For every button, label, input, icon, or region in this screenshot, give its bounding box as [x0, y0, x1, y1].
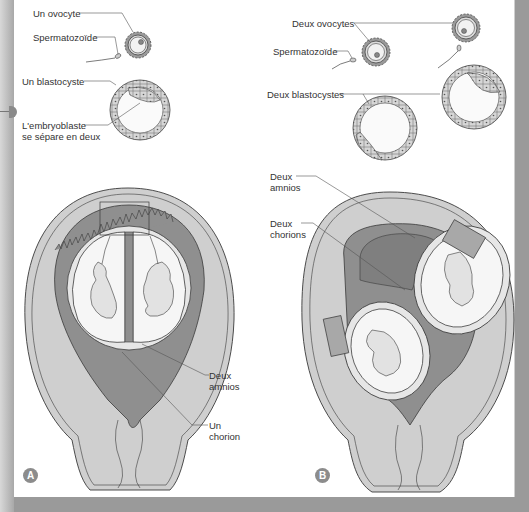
ovocyte-b1: [362, 38, 390, 66]
badge-b: B: [315, 468, 330, 483]
blastocyst-a: [110, 80, 170, 140]
leader-lines-b-top: [334, 23, 453, 104]
blastocyst-b2: [442, 65, 506, 129]
label-spermatozoid-b: Spermatozoïde: [273, 46, 337, 57]
spermatozoid-a: [86, 53, 122, 62]
label-spermatozoid-a: Spermatozoïde: [33, 32, 97, 43]
ovocyte-b2: [452, 14, 480, 42]
label-amnios-b-line1: Deux: [270, 171, 292, 182]
uterus-a: [25, 188, 234, 490]
label-ovocytes-b: Deux ovocytes: [292, 18, 354, 29]
label-blastocyst-a: Un blastocyste: [22, 76, 84, 87]
badge-a: A: [23, 468, 38, 483]
label-amnios-a-line2: amnios: [209, 381, 240, 392]
label-ovocyte-a: Un ovocyte: [33, 8, 81, 19]
label-chorion-a-line1: Un: [209, 420, 221, 431]
label-amnios-b-line2: amnios: [270, 182, 301, 193]
label-chorions-b-line2: chorions: [270, 229, 306, 240]
label-blastocysts-b: Deux blastocystes: [267, 89, 344, 100]
label-embryoblast-line2: se sépare en deux: [22, 131, 100, 142]
label-chorion-a-line2: chorion: [209, 431, 240, 442]
label-chorions-b-line1: Deux: [270, 218, 292, 229]
blastocyst-b1: [353, 96, 417, 160]
label-amnios-a-line1: Deux: [209, 370, 231, 381]
label-embryoblast-line1: L'embryoblaste: [22, 120, 86, 131]
ovocyte-a: [125, 32, 151, 58]
